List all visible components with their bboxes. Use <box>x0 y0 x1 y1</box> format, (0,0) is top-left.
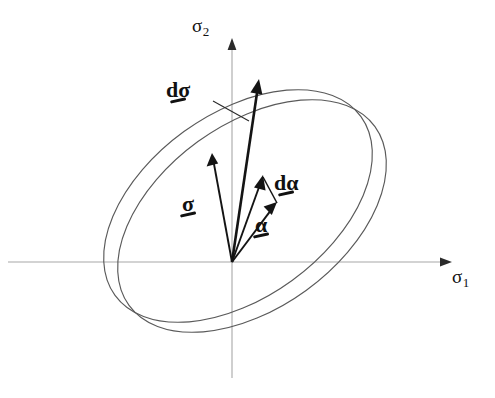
sigma-2-axis-label-subscript: 2 <box>203 24 210 39</box>
yield-surfaces-group <box>61 42 429 380</box>
d-alpha-vector-label-text: dα <box>274 172 299 194</box>
d-sigma-vector-arrowhead <box>250 79 262 94</box>
alpha-vector-label-text: α <box>255 214 267 236</box>
sigma-vector-label: σ <box>182 193 194 215</box>
sigma-2-axis-label: σ2 <box>192 16 209 38</box>
sigma-1-axis-label-subscript: 1 <box>463 275 470 290</box>
sigma-vector-arrowhead <box>207 153 219 166</box>
sigma-1-axis-label-base: σ <box>452 266 462 287</box>
translated-yield-surface <box>75 52 429 380</box>
figure-canvas <box>0 0 495 398</box>
d-sigma-vector-label-text: dσ <box>166 79 190 101</box>
sigma-1-axis-label: σ1 <box>452 267 469 289</box>
d-alpha-vector-label: dα <box>274 172 299 194</box>
d-sigma-vector-label: dσ <box>166 79 190 101</box>
outer-yield-surface <box>61 42 415 370</box>
alpha-vector-label: α <box>255 214 267 236</box>
sigma-vector-label-text: σ <box>182 193 194 215</box>
sigma-vector-shaft <box>214 163 232 262</box>
sigma-1-axis-arrowhead <box>440 258 452 267</box>
sigma-2-axis-arrowhead <box>228 38 237 50</box>
sigma-vector <box>207 153 232 262</box>
yield-surface-figure: σ2 σ1 dσ σ α dα <box>0 0 495 398</box>
sigma-2-axis-label-base: σ <box>192 15 202 36</box>
